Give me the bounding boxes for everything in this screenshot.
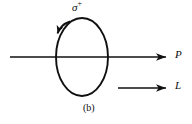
sigma-superscript: +: [77, 0, 82, 8]
momentum-label: P: [175, 49, 182, 60]
angular-momentum-label: L: [175, 80, 181, 91]
figure-drawing: [0, 0, 192, 124]
sigma-plus-label: σ+: [72, 0, 82, 13]
figure-caption: (b): [83, 103, 95, 113]
figure-container: σ+ P L (b): [0, 0, 192, 124]
